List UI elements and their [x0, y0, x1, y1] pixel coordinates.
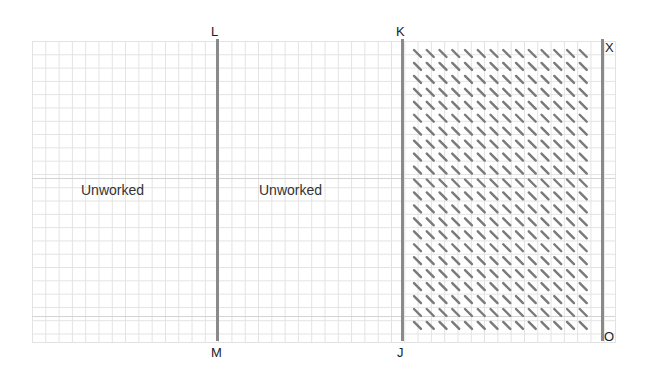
hatch-stitch — [554, 244, 561, 251]
hatch-stitch — [567, 192, 574, 199]
hatch-stitch — [554, 154, 561, 161]
hatch-stitch — [465, 205, 472, 212]
hatch-stitch — [465, 141, 472, 148]
hatch-stitch — [465, 322, 472, 329]
hatch-stitch — [491, 128, 498, 135]
hatch-stitch — [503, 154, 510, 161]
hatch-stitch — [516, 76, 523, 83]
hatch-stitch — [554, 257, 561, 264]
hatch-stitch — [503, 141, 510, 148]
hatch-stitch — [503, 115, 510, 122]
hatch-stitch — [580, 50, 587, 57]
hatch-stitch — [491, 296, 498, 303]
hatch-stitch — [567, 167, 574, 174]
hatch-stitch — [452, 102, 459, 109]
hatch-stitch — [516, 244, 523, 251]
hatch-stitch — [440, 296, 447, 303]
hatch-stitch — [440, 205, 447, 212]
hatch-stitch — [516, 63, 523, 70]
hatch-stitch — [503, 283, 510, 290]
hatch-stitch — [427, 50, 434, 57]
hatch-stitch — [580, 76, 587, 83]
hatch-stitch — [580, 309, 587, 316]
hatch-stitch — [516, 128, 523, 135]
hatch-stitch — [478, 218, 485, 225]
hatch-stitch — [567, 128, 574, 135]
hatch-stitch — [529, 244, 536, 251]
hatch-stitch — [529, 270, 536, 277]
stitch-diagram: L K X M J O Unworked Unworked — [0, 0, 646, 377]
hatch-stitch — [554, 283, 561, 290]
hatch-stitch — [554, 218, 561, 225]
hatch-stitch — [554, 167, 561, 174]
hatch-stitch — [427, 283, 434, 290]
hatch-stitch — [427, 128, 434, 135]
hatch-stitch — [414, 309, 421, 316]
hatch-stitch — [440, 309, 447, 316]
hatch-stitch — [516, 89, 523, 96]
hatch-stitch — [529, 76, 536, 83]
hatch-stitch — [465, 89, 472, 96]
hatch-stitch — [465, 63, 472, 70]
point-label-l: L — [211, 25, 218, 38]
hatch-stitch — [554, 270, 561, 277]
hatch-stitch — [554, 128, 561, 135]
hatch-stitch — [529, 167, 536, 174]
hatch-stitch — [529, 102, 536, 109]
hatch-stitch — [542, 192, 549, 199]
hatch-stitch — [491, 244, 498, 251]
hatch-stitch — [440, 244, 447, 251]
hatch-stitch — [503, 167, 510, 174]
hatch-stitch — [465, 102, 472, 109]
hatch-stitch — [516, 180, 523, 187]
hatch-stitch — [478, 257, 485, 264]
region-label-middle: Unworked — [259, 183, 322, 197]
hatch-stitch — [567, 50, 574, 57]
hatch-stitch — [580, 89, 587, 96]
hatch-stitch — [542, 141, 549, 148]
hatch-stitch — [516, 167, 523, 174]
hatch-stitch — [427, 192, 434, 199]
hatch-stitch — [440, 322, 447, 329]
hatch-stitch — [554, 50, 561, 57]
point-label-x: X — [605, 41, 614, 54]
hatch-stitch — [491, 167, 498, 174]
hatch-stitch — [554, 180, 561, 187]
hatch-stitch — [427, 257, 434, 264]
hatch-stitch — [465, 76, 472, 83]
hatch-stitch — [414, 296, 421, 303]
hatch-stitch — [542, 102, 549, 109]
hatch-stitch — [529, 205, 536, 212]
hatch-stitch — [478, 50, 485, 57]
hatch-stitch — [529, 128, 536, 135]
hatch-stitch — [427, 154, 434, 161]
hatch-stitch — [503, 192, 510, 199]
hatch-stitch — [491, 322, 498, 329]
hatch-stitch — [580, 141, 587, 148]
hatch-stitch — [542, 218, 549, 225]
hatch-stitch — [440, 76, 447, 83]
hatch-stitch — [491, 63, 498, 70]
hatch-stitch — [542, 63, 549, 70]
hatch-stitch — [491, 205, 498, 212]
hatch-stitch — [414, 89, 421, 96]
hatch-stitch — [414, 244, 421, 251]
hatch-stitch — [554, 115, 561, 122]
hatch-stitch — [491, 89, 498, 96]
hatch-stitch — [580, 115, 587, 122]
hatch-stitch — [503, 63, 510, 70]
hatch-stitch — [567, 309, 574, 316]
hatch-stitch — [478, 205, 485, 212]
hatch-stitch — [567, 115, 574, 122]
hatch-stitch — [567, 141, 574, 148]
hatch-stitch — [465, 128, 472, 135]
hatch-stitch — [580, 244, 587, 251]
hatch-stitch — [440, 63, 447, 70]
point-label-j: J — [397, 346, 404, 359]
hatch-stitch — [529, 296, 536, 303]
hatch-stitch — [516, 322, 523, 329]
hatch-stitch — [452, 192, 459, 199]
hatch-stitch — [478, 309, 485, 316]
hatch-stitch — [516, 192, 523, 199]
hatch-stitch — [440, 231, 447, 238]
